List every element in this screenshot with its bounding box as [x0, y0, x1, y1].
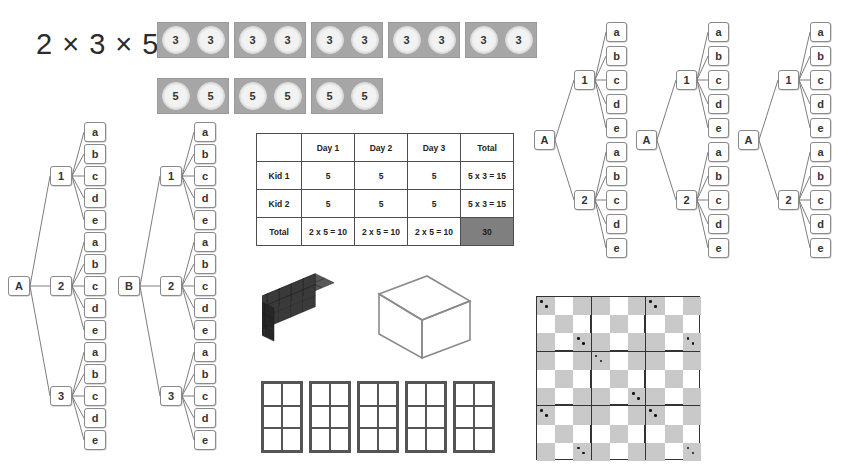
tree-node-leaf: d — [194, 188, 216, 208]
tree-node-branch: 1 — [574, 70, 595, 90]
mini-grid-cell — [330, 428, 349, 451]
chip-3: 3 — [470, 26, 498, 54]
tree-node-leaf: d — [606, 214, 627, 234]
tree-node-leaf: b — [810, 166, 831, 186]
checker-square — [555, 425, 573, 443]
checker-square — [665, 315, 683, 333]
tree-node-root: A — [738, 130, 759, 150]
checker-square — [646, 443, 664, 461]
tree-node-leaf: e — [84, 320, 106, 340]
table-row-header: Kid 1 — [257, 162, 302, 190]
chip-5: 5 — [162, 82, 190, 110]
tree-node-leaf: a — [810, 22, 831, 42]
page-title: 2 × 3 × 5 — [36, 28, 160, 61]
tree-node-leaf: b — [194, 144, 216, 164]
tree-node-leaf: a — [194, 342, 216, 362]
tree-node-root: A — [8, 276, 30, 296]
tree-node-leaf: a — [606, 22, 627, 42]
tree-node-leaf: c — [84, 276, 106, 296]
chip-box: 33 — [388, 22, 460, 58]
tree-node-branch: 1 — [778, 70, 799, 90]
checker-square — [573, 388, 591, 406]
mini-grid-cell — [359, 406, 378, 429]
checker-dot — [540, 300, 543, 303]
chip-5: 5 — [316, 82, 344, 110]
chip-3: 3 — [162, 26, 190, 54]
chip-5: 5 — [239, 82, 267, 110]
tree-node-leaf: e — [810, 118, 831, 138]
checker-square — [665, 370, 683, 388]
checker-square — [646, 333, 664, 351]
checker-square — [665, 425, 683, 443]
chip-3: 3 — [393, 26, 421, 54]
table-row: Kid 25555 x 3 = 15 — [257, 190, 514, 218]
cube-stack-icon — [262, 274, 334, 341]
chip-3: 3 — [505, 26, 533, 54]
tree-node-leaf: d — [810, 214, 831, 234]
tree-node-leaf: a — [84, 122, 106, 142]
tree-node-leaf: d — [810, 94, 831, 114]
tree-node-leaf: a — [194, 232, 216, 252]
checker-sub-board — [645, 351, 700, 406]
table-cell: 5 — [355, 190, 408, 218]
checker-dot — [545, 305, 548, 308]
checker-dot — [540, 409, 543, 412]
checker-square — [610, 315, 628, 333]
mini-grid-cell — [311, 428, 330, 451]
mini-grid — [309, 381, 351, 453]
tree-node-branch: 2 — [160, 276, 182, 296]
mini-grid-cell — [426, 428, 445, 451]
table-column-header: Day 1 — [302, 134, 355, 162]
table-cell: 5 — [302, 162, 355, 190]
tree-node-branch: 2 — [574, 190, 595, 210]
checker-sub-board — [536, 296, 591, 351]
checker-sub-board — [591, 351, 646, 406]
checker-dot — [637, 397, 640, 400]
checker-square — [592, 297, 610, 315]
tree-node-leaf: c — [708, 70, 729, 90]
tree-node-leaf: a — [810, 142, 831, 162]
checker-sub-board — [645, 296, 700, 351]
mini-grid-cell — [282, 383, 301, 406]
tree-node-leaf: c — [708, 190, 729, 210]
tree-node-leaf: b — [194, 364, 216, 384]
chip-5: 5 — [197, 82, 225, 110]
checker-square — [683, 297, 701, 315]
table-cell: 5 x 3 = 15 — [461, 190, 514, 218]
table-cell: 2 x 5 = 10 — [408, 218, 461, 246]
checker-square — [610, 370, 628, 388]
table-cell: 2 x 5 = 10 — [302, 218, 355, 246]
checker-sub-board — [591, 296, 646, 351]
table-corner-cell — [257, 134, 302, 162]
table-header-row: Day 1Day 2Day 3Total — [257, 134, 514, 162]
table-cell: 5 x 3 = 15 — [461, 162, 514, 190]
tree-node-leaf: b — [708, 46, 729, 66]
tree-node-leaf: c — [84, 166, 106, 186]
checker-dot — [649, 300, 652, 303]
tree-node-leaf: d — [84, 188, 106, 208]
checker-square — [628, 352, 646, 370]
table-column-header: Day 2 — [355, 134, 408, 162]
checker-square — [573, 406, 591, 424]
tree-node-leaf: e — [84, 430, 106, 450]
table-cell: 5 — [408, 190, 461, 218]
mini-grid-cell — [378, 428, 397, 451]
chip-box: 33 — [311, 22, 383, 58]
chip-box: 33 — [465, 22, 537, 58]
tree-node-leaf: d — [708, 214, 729, 234]
table-grand-total-cell: 30 — [461, 218, 514, 246]
tree-node-leaf: e — [708, 238, 729, 258]
tree-node-leaf: b — [606, 166, 627, 186]
tree-node-leaf: c — [84, 386, 106, 406]
tree-node-leaf: d — [194, 408, 216, 428]
tree-node-leaf: e — [194, 430, 216, 450]
chip-5: 5 — [274, 82, 302, 110]
checker-square — [537, 352, 555, 370]
mini-grid-cell — [330, 383, 349, 406]
chip-3: 3 — [351, 26, 379, 54]
mini-grid-cell — [455, 428, 474, 451]
mini-grid-cell — [426, 406, 445, 429]
tree-node-branch: 3 — [50, 386, 72, 406]
mini-grid-cell — [474, 406, 493, 429]
tree-node-leaf: e — [810, 238, 831, 258]
